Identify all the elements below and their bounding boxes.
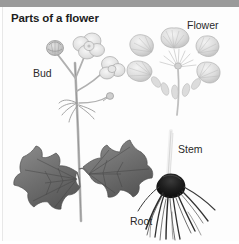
leaf-right bbox=[79, 140, 153, 197]
label-stem: Stem bbox=[178, 143, 203, 155]
top-gray-bar bbox=[0, 0, 239, 7]
small-bud bbox=[103, 93, 114, 101]
detached-stamens bbox=[150, 75, 203, 99]
petal-lower-left bbox=[127, 61, 152, 82]
secondary-flower-bloom bbox=[100, 57, 126, 80]
plant-main-stem bbox=[75, 63, 81, 221]
label-root: Root bbox=[130, 215, 152, 227]
flower-diagram-page: Parts of a flower bbox=[0, 0, 239, 244]
botanical-illustration bbox=[3, 7, 239, 241]
label-flower: Flower bbox=[187, 19, 219, 31]
petal-top bbox=[161, 28, 189, 48]
dissected-flower-diagram bbox=[127, 28, 220, 115]
open-flower-bloom bbox=[73, 33, 105, 59]
plant-specimen bbox=[14, 33, 153, 221]
petal-upper-right bbox=[196, 36, 219, 57]
label-bud: Bud bbox=[33, 67, 52, 79]
flower-bud bbox=[47, 41, 64, 56]
petal-upper-left bbox=[130, 35, 154, 57]
leaf-left bbox=[14, 146, 80, 209]
illustration-sheet: Parts of a flower bbox=[2, 7, 239, 241]
specimen-stem bbox=[168, 131, 173, 177]
